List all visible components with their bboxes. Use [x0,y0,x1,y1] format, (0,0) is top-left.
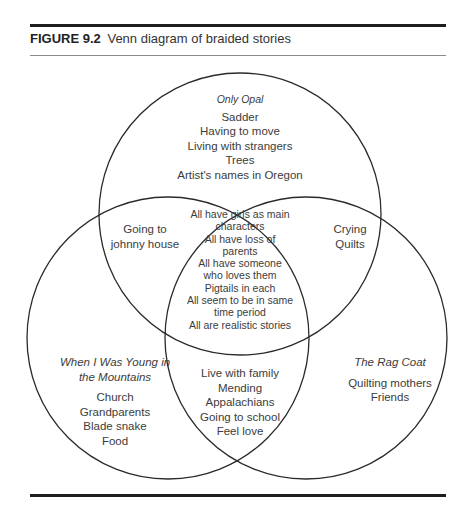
list-item: All are realistic stories [165,319,315,331]
list-item: Artist's names in Oregon [140,168,340,183]
list-item: Food [40,434,190,449]
list-item: Appalachians [180,395,300,410]
region-only-young: When I Was Young in the Mountains Church… [40,355,190,448]
list-item: Having to move [140,124,340,139]
region-label: When I Was Young in [40,355,190,370]
region-label: The Rag Coat [340,355,440,370]
list-item: All seem to be in same [165,294,315,306]
region-label: the Mountains [40,370,190,385]
list-item: characters [165,220,315,232]
list-item: Church [40,390,190,405]
list-item: parents [165,245,315,257]
list-item: Live with family [180,366,300,381]
region-label: Only Opal [140,92,340,107]
list-item: Quilts [320,237,380,252]
list-item: Feel love [180,424,300,439]
list-item: All have loss of [165,233,315,245]
region-only-opal: Only Opal Sadder Having to move Living w… [140,92,340,182]
region-opal-and-ragcoat: Crying Quilts [320,222,380,251]
list-item: Mending [180,381,300,396]
list-item: Friends [340,390,440,405]
region-young-and-ragcoat: Live with family Mending Appalachians Go… [180,366,300,439]
list-item: Grandparents [40,405,190,420]
list-item: Pigtails in each [165,282,315,294]
list-item: time period [165,306,315,318]
list-item: Sadder [140,110,340,125]
list-item: who loves them [165,269,315,281]
region-only-ragcoat: The Rag Coat Quilting mothers Friends [340,355,440,405]
list-item: Trees [140,153,340,168]
bottom-thick-rule [30,494,446,497]
list-item: Going to school [180,410,300,425]
list-item: Blade snake [40,419,190,434]
list-item: Quilting mothers [340,376,440,391]
list-item: All have someone [165,257,315,269]
list-item: All have girls as main [165,208,315,220]
list-item: Crying [320,222,380,237]
list-item: Living with strangers [140,139,340,154]
region-all-three: All have girls as main characters All ha… [165,208,315,331]
